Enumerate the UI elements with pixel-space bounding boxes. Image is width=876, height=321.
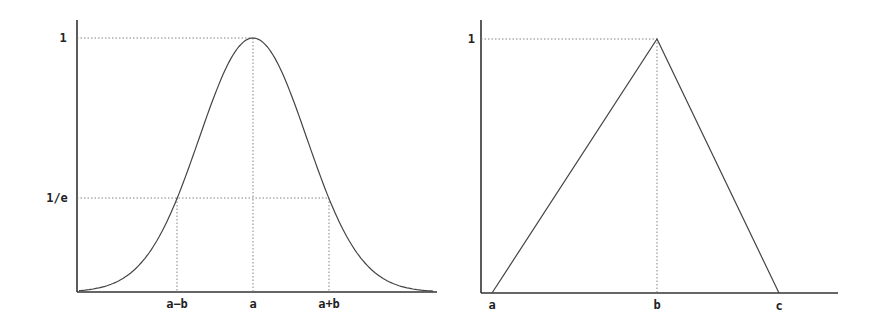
label-x-a-plus-b: a+b <box>318 297 340 311</box>
label-x-a: a <box>249 297 256 311</box>
triangle-panel: 1 a b c <box>468 20 838 313</box>
diagram-canvas: 1 1/e a−b a a+b 1 a b c <box>0 0 876 321</box>
label-x-c-right: c <box>775 299 782 313</box>
gaussian-curve <box>79 38 433 291</box>
label-x-a-minus-b: a−b <box>166 297 188 311</box>
label-y-1: 1 <box>59 31 66 45</box>
gaussian-panel: 1 1/e a−b a a+b <box>46 20 437 311</box>
label-y-1-right: 1 <box>468 32 475 46</box>
label-x-b-right: b <box>653 298 660 312</box>
triangle-curve <box>492 39 779 293</box>
label-y-inv-e: 1/e <box>46 191 68 205</box>
label-x-a-right: a <box>488 298 495 312</box>
